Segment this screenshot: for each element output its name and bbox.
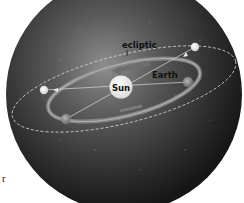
- diagram-canvas: Sun ecliptic Earth: [0, 0, 244, 203]
- ecliptic-label: ecliptic: [122, 40, 157, 50]
- edge-text-fragment: r: [2, 172, 6, 184]
- earth-label: Earth: [152, 70, 178, 80]
- celestial-sphere: [6, 0, 242, 203]
- sun-label: Sun: [112, 83, 130, 93]
- earth-position-right: [183, 77, 193, 87]
- projected-sun-left: [40, 86, 48, 94]
- earth-position-lower-left: [61, 114, 71, 124]
- projected-sun-upper-right: [191, 43, 199, 51]
- celestial-sphere-diagram: Sun ecliptic Earth r: [0, 0, 244, 203]
